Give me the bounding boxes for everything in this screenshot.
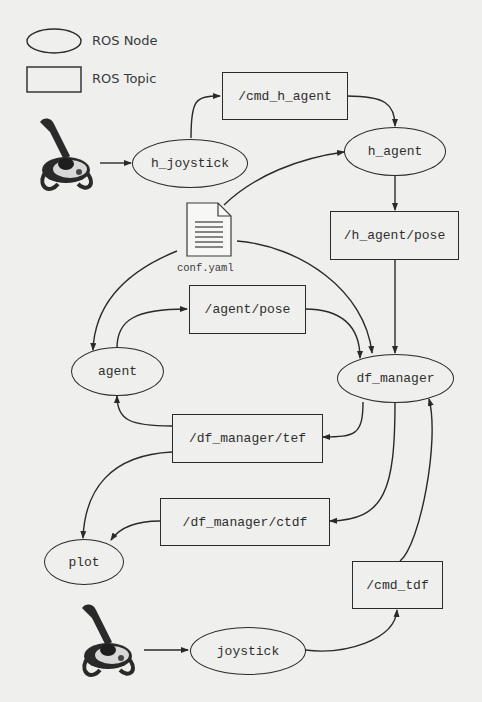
edge-agent_pose-df_manager bbox=[305, 309, 360, 358]
config-file-label: conf.yaml bbox=[177, 262, 234, 274]
edge-df_manager-tef bbox=[323, 402, 363, 437]
edge-agent-agent_pose bbox=[117, 309, 187, 348]
edge-ctdf-plot bbox=[111, 521, 160, 540]
topic-h_agent_pose[interactable]: /h_agent/pose bbox=[330, 211, 459, 260]
joystick-icon bbox=[40, 118, 91, 189]
topic-df_manager_tef[interactable]: /df_manager/tef bbox=[172, 414, 323, 463]
topic-cmd_h_agent[interactable]: /cmd_h_agent bbox=[222, 72, 348, 120]
edge-tef-plot bbox=[83, 452, 172, 538]
legend-topic-label: ROS Topic bbox=[92, 71, 156, 86]
node-df_manager[interactable]: df_manager bbox=[337, 354, 454, 403]
edge-cmd_tdf-df_manager bbox=[400, 399, 432, 561]
node-agent[interactable]: agent bbox=[71, 347, 164, 396]
edge-h_joystick-cmd_h_agent bbox=[191, 96, 220, 138]
edge-conf-agent bbox=[93, 251, 177, 350]
edge-df_manager-ctdf bbox=[330, 402, 395, 521]
topic-agent_pose[interactable]: /agent/pose bbox=[189, 285, 306, 334]
node-h_agent[interactable]: h_agent bbox=[344, 127, 446, 176]
joystick-icon bbox=[82, 604, 133, 675]
edge-tef-agent bbox=[117, 396, 172, 426]
topic-cmd_tdf[interactable]: /cmd_tdf bbox=[352, 561, 443, 609]
edge-cmd_h_agent-h_agent bbox=[347, 96, 395, 126]
document-icon bbox=[187, 203, 231, 256]
legend-topic-shape bbox=[27, 67, 81, 92]
legend-node-label: ROS Node bbox=[92, 33, 158, 48]
legend-node-shape bbox=[27, 29, 81, 53]
topic-df_manager_ctdf[interactable]: /df_manager/ctdf bbox=[160, 498, 330, 546]
node-plot[interactable]: plot bbox=[44, 539, 124, 585]
edge-joystick-cmd_tdf bbox=[305, 610, 397, 651]
node-h_joystick[interactable]: h_joystick bbox=[132, 139, 248, 188]
node-joystick[interactable]: joystick bbox=[190, 627, 306, 675]
ros-diagram: ROS Node ROS Topic h_joystick h_agent ag… bbox=[0, 0, 482, 702]
